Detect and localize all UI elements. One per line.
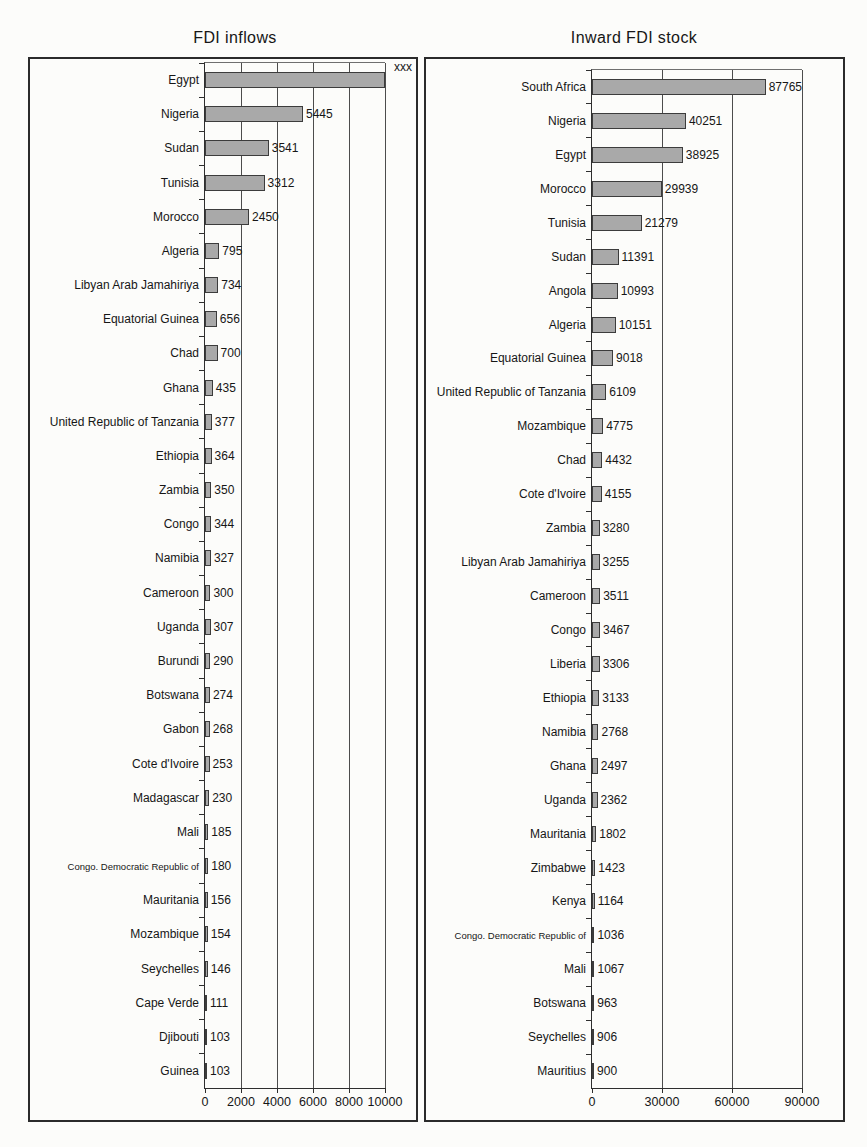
- value-label: 3467: [603, 623, 630, 637]
- bar-row: Mauritania156: [205, 883, 385, 917]
- bar-row: Congo. Democratic Republic of1036: [592, 918, 802, 952]
- axis-tick: [592, 1088, 593, 1093]
- bar-row: Uganda2362: [592, 783, 802, 817]
- category-label: Chad: [170, 346, 199, 360]
- bar: [205, 961, 208, 977]
- value-label: 29939: [665, 182, 698, 196]
- category-label: Liberia: [550, 657, 586, 671]
- bar-row: Equatorial Guinea9018: [592, 342, 802, 376]
- axis-tick: [385, 1088, 386, 1093]
- bar: [592, 452, 602, 468]
- category-label: Angola: [549, 284, 586, 298]
- category-label: Equatorial Guinea: [490, 351, 586, 365]
- category-label: Mauritius: [537, 1064, 586, 1078]
- bar: [205, 756, 210, 772]
- value-label: 268: [213, 722, 233, 736]
- bar: [205, 448, 212, 464]
- value-label: 2497: [601, 759, 628, 773]
- bar-row: Mozambique154: [205, 917, 385, 951]
- bar: [205, 209, 249, 225]
- category-label: Seychelles: [528, 1030, 586, 1044]
- axis-tick-label: 60000: [715, 1095, 750, 1109]
- category-label: Uganda: [544, 793, 586, 807]
- value-label: 4775: [606, 419, 633, 433]
- bar: [592, 384, 606, 400]
- category-label: Guinea: [160, 1064, 199, 1078]
- value-label: 3280: [603, 521, 630, 535]
- bars-container: EgyptxxxNigeria5445Sudan3541Tunisia3312M…: [205, 63, 385, 1088]
- bar: [592, 622, 600, 638]
- bar: [205, 106, 303, 122]
- bar-row: Burundi290: [205, 644, 385, 678]
- bar-row: Ethiopia364: [205, 439, 385, 473]
- category-label: Nigeria: [548, 114, 586, 128]
- category-label: Congo. Democratic Republic of: [68, 861, 199, 872]
- axis-tick-label: 6000: [299, 1095, 327, 1109]
- value-label: 364: [215, 449, 235, 463]
- category-label: Mali: [177, 825, 199, 839]
- value-label: 1036: [597, 928, 624, 942]
- category-label: Nigeria: [161, 107, 199, 121]
- category-label: Morocco: [540, 182, 586, 196]
- category-label: Chad: [557, 453, 586, 467]
- value-label: 156: [211, 893, 231, 907]
- bar: [592, 317, 616, 333]
- axis-tick-label: 2000: [227, 1095, 255, 1109]
- value-label: 103: [210, 1064, 230, 1078]
- bar: [592, 792, 598, 808]
- value-label: 185: [211, 825, 231, 839]
- bar: [592, 418, 603, 434]
- value-label: 146: [211, 962, 231, 976]
- value-label: 38925: [686, 148, 719, 162]
- bar-row: Ghana435: [205, 371, 385, 405]
- bar-row: Seychelles146: [205, 951, 385, 985]
- bar-row: Libyan Arab Jamahiriya734: [205, 268, 385, 302]
- bar-row: Nigeria40251: [592, 104, 802, 138]
- bar-row: Sudan3541: [205, 131, 385, 165]
- axis-tick-label: 30000: [645, 1095, 680, 1109]
- bar-row: Guinea103: [205, 1054, 385, 1088]
- bar: [592, 486, 602, 502]
- value-label: 3312: [268, 176, 295, 190]
- axis-tick: [349, 1088, 350, 1093]
- bar-row: South Africa87765: [592, 70, 802, 104]
- value-label: 1164: [598, 894, 624, 908]
- category-label: South Africa: [521, 80, 586, 94]
- category-label: Equatorial Guinea: [103, 312, 199, 326]
- bar: [205, 687, 210, 703]
- category-label: Congo: [164, 517, 199, 531]
- value-label: 300: [213, 586, 233, 600]
- category-label: Ghana: [163, 381, 199, 395]
- bar: [205, 277, 218, 293]
- bar: [592, 113, 686, 129]
- category-label: Sudan: [164, 141, 199, 155]
- bar-row: Chad4432: [592, 443, 802, 477]
- bar-row: Botswana963: [592, 986, 802, 1020]
- value-label: 154: [211, 927, 231, 941]
- value-label: 1067: [597, 962, 624, 976]
- bar-row: Tunisia21279: [592, 206, 802, 240]
- value-label: 900: [597, 1064, 617, 1078]
- category-label: Algeria: [162, 244, 199, 258]
- value-label: 3541: [272, 141, 299, 155]
- value-label: 4155: [605, 487, 632, 501]
- category-label: Libyan Arab Jamahiriya: [461, 555, 586, 569]
- bar-row: Cote d'Ivoire253: [205, 746, 385, 780]
- axis-tick: [662, 1088, 663, 1093]
- category-label: Gabon: [163, 722, 199, 736]
- category-label: Botswana: [146, 688, 199, 702]
- bar: [205, 380, 213, 396]
- plot-area-0: 0200040006000800010000EgyptxxxNigeria544…: [204, 62, 385, 1089]
- bar-row: United Republic of Tanzania377: [205, 405, 385, 439]
- bars-container: South Africa87765Nigeria40251Egypt38925M…: [592, 70, 802, 1088]
- bar: [205, 585, 210, 601]
- bar: [592, 181, 662, 197]
- panel-fdi-inflows: 0200040006000800010000EgyptxxxNigeria544…: [28, 57, 418, 1122]
- category-label: Cameroon: [143, 586, 199, 600]
- category-label: Burundi: [158, 654, 199, 668]
- bar-row: Uganda307: [205, 610, 385, 644]
- bar: [205, 243, 219, 259]
- bar-row: Mauritius900: [592, 1054, 802, 1088]
- axis-tick: [732, 1088, 733, 1093]
- category-label: Ghana: [550, 759, 586, 773]
